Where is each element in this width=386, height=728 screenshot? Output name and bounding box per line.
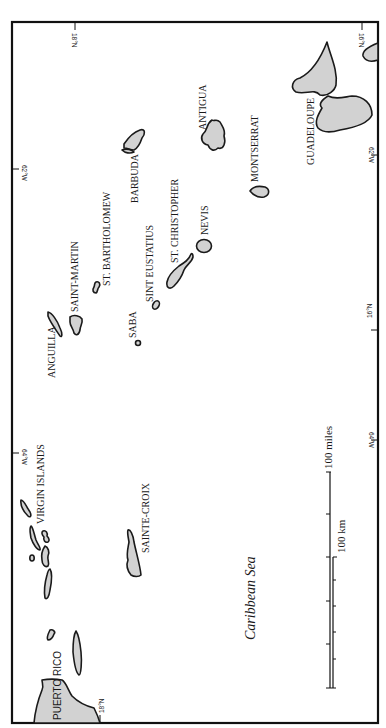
coord-right-62w: 62°W bbox=[368, 147, 375, 164]
island-virgin-6 bbox=[45, 569, 52, 599]
label-guadeloupe: GUADELOUPE bbox=[305, 98, 316, 165]
label-montserrat: MONTSERRAT bbox=[249, 115, 260, 182]
island-barbuda-reef bbox=[122, 149, 134, 153]
coord-left-64w: 64°W bbox=[21, 449, 28, 466]
island-sainte-croix bbox=[127, 530, 141, 577]
island-virgin-2 bbox=[30, 526, 40, 550]
label-sint-eustatius: SINT EUSTATIUS bbox=[144, 225, 155, 302]
island-saint-martin bbox=[70, 316, 82, 335]
island-virgin-5 bbox=[30, 555, 34, 561]
label-puerto-rico: PUERTO RICO bbox=[52, 651, 63, 720]
island-virgin-3 bbox=[42, 531, 49, 542]
scale-bar: 100 miles 100 km bbox=[322, 426, 347, 688]
island-culebra bbox=[47, 630, 54, 640]
coord-left-62w: 62°W bbox=[21, 165, 28, 182]
label-sainte-croix: SAINTE-CROIX bbox=[140, 482, 151, 553]
island-saba bbox=[136, 341, 141, 346]
label-virgin-islands: VIRGIN ISLANDS bbox=[35, 444, 46, 524]
island-barbuda bbox=[124, 130, 144, 150]
coord-right-64w: 64°W bbox=[368, 432, 375, 449]
label-saba: SABA bbox=[127, 311, 138, 338]
label-barbuda: BARBUDA bbox=[129, 153, 140, 203]
map-canvas: 18°N 16°N 62°W 64°W 62°W 64°W 16°N 18°N … bbox=[0, 0, 386, 728]
label-st-bartholomew: ST. BARTHOLOMEW bbox=[101, 191, 112, 286]
island-virgin-4 bbox=[42, 546, 49, 567]
label-anguilla: ANGUILLA bbox=[46, 326, 57, 378]
label-nevis: NEVIS bbox=[199, 206, 210, 235]
island-virgin-1 bbox=[21, 500, 31, 517]
label-antigua: ANTIGUA bbox=[197, 84, 208, 130]
island-montserrat bbox=[250, 186, 269, 197]
label-st-christopher: ST. CHRISTOPHER bbox=[169, 179, 180, 263]
island-puerto-rico bbox=[34, 679, 100, 723]
label-caribbean-sea: Caribbean Sea bbox=[243, 556, 258, 640]
island-guadeloupe-grande-terre bbox=[316, 96, 372, 132]
island-vieques bbox=[73, 631, 81, 675]
coord-right-16n: 16°N bbox=[366, 303, 373, 318]
label-saint-martin: SAINT-MARTIN bbox=[69, 241, 80, 312]
coord-bottom-18n: 18°N bbox=[98, 698, 105, 713]
island-guadeloupe-basse-terre bbox=[293, 42, 337, 95]
coord-top-16n: 16°N bbox=[358, 33, 365, 48]
island-nevis bbox=[197, 240, 212, 253]
coord-top-18n: 18°N bbox=[71, 33, 78, 48]
scale-label-miles: 100 miles bbox=[322, 426, 334, 469]
scale-label-km: 100 km bbox=[335, 519, 347, 553]
island-st-bartholomew bbox=[93, 282, 100, 293]
